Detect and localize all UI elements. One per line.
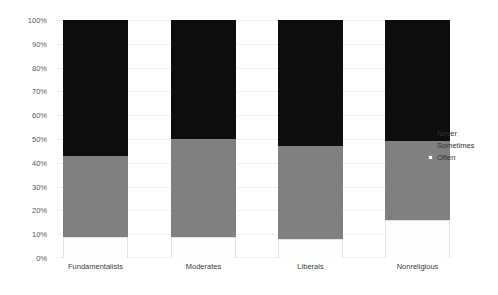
bar-segment-often[interactable] <box>171 237 236 258</box>
stacked-bar-chart: 0% 10% 20% 30% 40% 50% 60% 70% 80% 90% 1… <box>0 0 498 295</box>
bar-segment-sometimes[interactable] <box>278 146 343 239</box>
stacked-bar[interactable] <box>63 20 128 258</box>
bar-segment-never[interactable] <box>278 20 343 146</box>
bar-segment-often[interactable] <box>278 239 343 258</box>
y-tick-label-60: 60% <box>32 111 47 120</box>
bar-segment-never[interactable] <box>63 20 128 156</box>
y-tick-label-40: 40% <box>32 158 47 167</box>
bar-segment-often[interactable] <box>385 220 450 258</box>
bar-segment-sometimes[interactable] <box>63 156 128 237</box>
never-swatch-icon <box>428 131 433 136</box>
stacked-bar[interactable] <box>171 20 236 258</box>
bar-group-moderates[interactable] <box>171 20 236 258</box>
y-tick-label-90: 90% <box>32 39 47 48</box>
stacked-bar[interactable] <box>278 20 343 258</box>
y-tick-label-50: 50% <box>32 135 47 144</box>
y-tick-label-100: 100% <box>28 16 47 25</box>
y-tick-label-80: 80% <box>32 63 47 72</box>
legend-item-often[interactable]: Often <box>428 152 494 163</box>
bar-segment-often[interactable] <box>63 237 128 258</box>
legend-label-sometimes: Sometimes <box>437 141 475 150</box>
bar-group-liberals[interactable] <box>278 20 343 258</box>
often-swatch-icon <box>428 155 433 160</box>
x-label-fundamentalists: Fundamentalists <box>68 262 123 272</box>
bar-segment-never[interactable] <box>171 20 236 139</box>
x-label-moderates: Moderates <box>186 262 221 272</box>
x-label-nonreligious: Nonreligious <box>397 262 439 272</box>
y-tick-label-30: 30% <box>32 182 47 191</box>
legend-item-never[interactable]: Never <box>428 128 494 139</box>
y-axis: 0% 10% 20% 30% 40% 50% 60% 70% 80% 90% 1… <box>0 0 55 295</box>
y-tick-label-20: 20% <box>32 206 47 215</box>
legend-label-never: Never <box>437 129 457 138</box>
x-label-liberals: Liberals <box>297 262 323 272</box>
plot-area <box>55 20 412 258</box>
y-tick-label-0: 0% <box>36 254 47 263</box>
sometimes-swatch-icon <box>428 143 433 148</box>
legend-label-often: Often <box>437 153 455 162</box>
bar-segment-sometimes[interactable] <box>171 139 236 237</box>
bar-segment-never[interactable] <box>385 20 450 141</box>
y-tick-label-10: 10% <box>32 230 47 239</box>
bar-group-fundamentalists[interactable] <box>63 20 128 258</box>
legend-item-sometimes[interactable]: Sometimes <box>428 140 494 151</box>
legend: Never Sometimes Often <box>428 128 494 164</box>
y-tick-label-70: 70% <box>32 87 47 96</box>
